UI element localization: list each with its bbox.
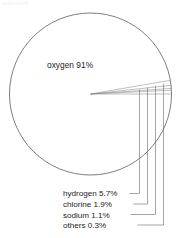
slice-label-oxygen: oxygen 91% xyxy=(47,60,94,70)
watermark-text: watermark xyxy=(2,0,29,6)
callout-label-others: others 0.3% xyxy=(63,221,106,230)
callout-label-hydrogen: hydrogen 5.7% xyxy=(63,189,117,198)
chart-canvas: oxygen 91% hydrogen 5.7% chlorine 1.9% s… xyxy=(0,0,180,238)
pie-chart-figure: watermark oxygen 91% hydrogen 5.7% xyxy=(0,0,180,238)
callout-label-sodium: sodium 1.1% xyxy=(63,211,110,220)
callout-label-chlorine: chlorine 1.9% xyxy=(63,200,112,209)
